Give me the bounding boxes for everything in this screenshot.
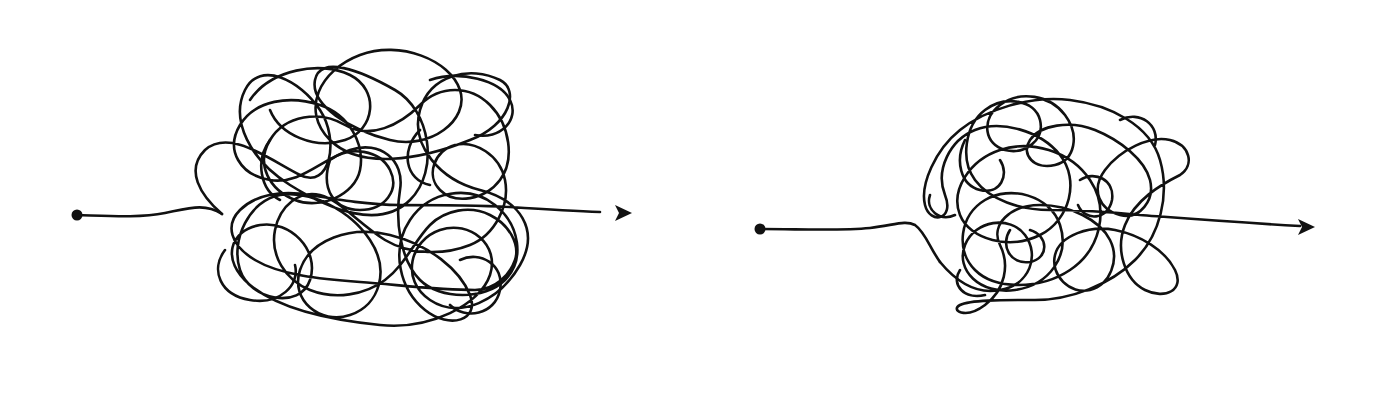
small-tangle-figure — [755, 96, 1316, 313]
lead-in-line — [77, 207, 222, 216]
lead-in-line — [760, 223, 940, 262]
arrowhead-icon — [615, 205, 632, 221]
large-tangle-figure — [72, 50, 633, 326]
tangled-lines-illustration — [0, 0, 1375, 414]
